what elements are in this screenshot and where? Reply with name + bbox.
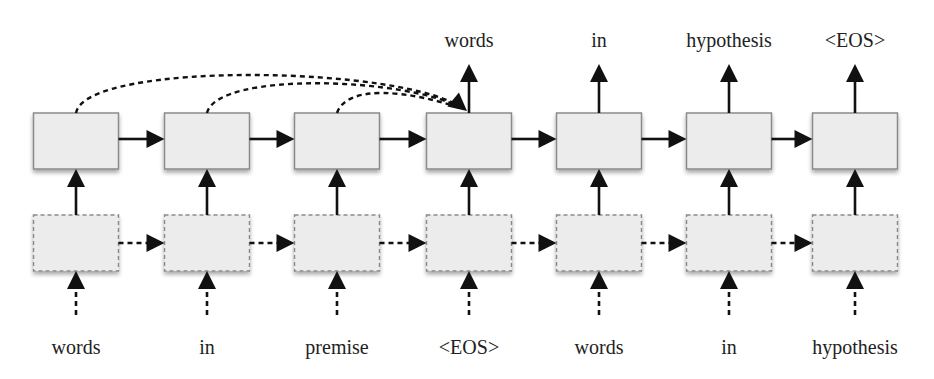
embedding-arrowhead-icon-1 <box>277 234 295 252</box>
rnn-attention-diagram <box>0 0 934 379</box>
input-label-premise: premise <box>305 337 368 357</box>
up-arrowhead-icon-3 <box>460 169 478 187</box>
input-label-words-2: words <box>575 337 624 357</box>
hidden-state-box-1 <box>165 113 250 169</box>
input-arrowhead-icon-1 <box>198 271 216 289</box>
up-arrowhead-icon-1 <box>198 169 216 187</box>
input-label-words: words <box>52 337 101 357</box>
embedding-box-3 <box>427 215 512 271</box>
input-arrowhead-icon-0 <box>67 271 85 289</box>
embedding-box-0 <box>34 215 119 271</box>
input-arrowhead-icon-3 <box>460 271 478 289</box>
input-arrowhead-icon-4 <box>590 271 608 289</box>
output-label-words: words <box>445 30 494 50</box>
input-arrowhead-icon-2 <box>328 271 346 289</box>
output-label-in: in <box>591 30 607 50</box>
hidden-state-box-3 <box>427 113 512 169</box>
up-arrowhead-icon-4 <box>590 169 608 187</box>
embedding-box-2 <box>295 215 380 271</box>
hidden-state-box-2 <box>295 113 380 169</box>
up-arrowhead-icon-2 <box>328 169 346 187</box>
embedding-arrowhead-icon-4 <box>669 234 687 252</box>
output-arrowhead-icon-5 <box>720 64 738 82</box>
embedding-arrowhead-icon-5 <box>795 234 813 252</box>
embedding-arrowhead-icon-0 <box>147 234 165 252</box>
embedding-box-6 <box>813 215 898 271</box>
output-label-eos: <EOS> <box>825 30 885 50</box>
input-arrowhead-icon-6 <box>846 271 864 289</box>
recurrent-arrowhead-icon-3 <box>539 130 557 148</box>
output-arrowhead-icon-6 <box>846 64 864 82</box>
attention-links-layer <box>76 75 467 113</box>
recurrent-arrowhead-icon-5 <box>795 130 813 148</box>
input-label-eos: <EOS> <box>439 337 499 357</box>
input-label-hypothesis: hypothesis <box>812 337 898 357</box>
recurrent-arrowhead-icon-1 <box>277 130 295 148</box>
up-arrowhead-icon-0 <box>67 169 85 187</box>
hidden-state-box-5 <box>687 113 772 169</box>
hidden-state-box-6 <box>813 113 898 169</box>
hidden-state-box-0 <box>34 113 119 169</box>
embedding-arrowhead-icon-2 <box>409 234 427 252</box>
up-arrowhead-icon-6 <box>846 169 864 187</box>
embedding-box-5 <box>687 215 772 271</box>
input-arrowhead-icon-5 <box>720 271 738 289</box>
up-arrowhead-icon-5 <box>720 169 738 187</box>
embedding-box-1 <box>165 215 250 271</box>
recurrent-arrowhead-icon-0 <box>147 130 165 148</box>
arrows-layer <box>67 64 864 315</box>
attention-link-2 <box>337 93 463 113</box>
recurrent-arrowhead-icon-4 <box>669 130 687 148</box>
embedding-box-4 <box>557 215 642 271</box>
hidden-state-box-4 <box>557 113 642 169</box>
output-arrowhead-icon-3 <box>460 64 478 82</box>
input-label-in-2: in <box>721 337 737 357</box>
output-arrowhead-icon-4 <box>590 64 608 82</box>
boxes-layer <box>34 113 898 271</box>
recurrent-arrowhead-icon-2 <box>409 130 427 148</box>
attention-link-1 <box>207 83 463 113</box>
output-label-hypothesis: hypothesis <box>686 30 772 50</box>
embedding-arrowhead-icon-3 <box>539 234 557 252</box>
input-label-in: in <box>199 337 215 357</box>
